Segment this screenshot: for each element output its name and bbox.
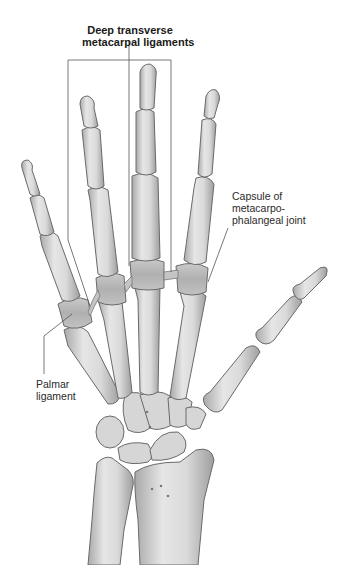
deep-transverse-label: Deep transverse metacarpal ligaments xyxy=(82,24,178,48)
label-line: Palmar xyxy=(36,378,76,390)
thumb-distal xyxy=(293,267,327,299)
label-line: Capsule of xyxy=(232,190,306,202)
radius xyxy=(135,449,214,565)
capsule-2 xyxy=(176,263,208,295)
thumb-proximal xyxy=(256,296,302,344)
label-line: ligament xyxy=(36,390,76,402)
capsule-3 xyxy=(130,259,164,290)
metacarpal-1-thumb xyxy=(203,346,260,412)
capsule-5 xyxy=(58,298,92,329)
label-line: Deep transverse xyxy=(82,24,178,36)
capsule-label: Capsule of metacarpo- phalangeal joint xyxy=(232,190,306,226)
label-line: metacarpal ligaments xyxy=(82,36,178,48)
metacarpal-2 xyxy=(170,290,206,400)
metacarpal-3 xyxy=(134,281,160,395)
ulna xyxy=(88,457,133,565)
capsule-4 xyxy=(96,273,126,305)
label-line: metacarpo- xyxy=(232,202,306,214)
forearm-bones xyxy=(88,449,214,565)
capsule-leader xyxy=(208,228,228,282)
label-line: phalangeal joint xyxy=(232,214,306,226)
hand-bones-illustration xyxy=(0,0,343,565)
middle-phalanges xyxy=(30,109,216,236)
palmar-ligament-label: Palmar ligament xyxy=(36,378,76,402)
